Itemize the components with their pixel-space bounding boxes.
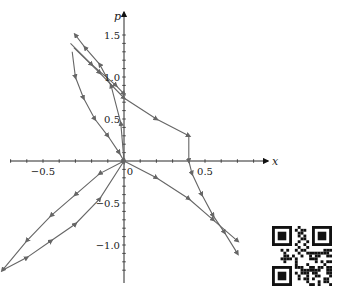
y-tick-label: 0.5 <box>104 114 120 125</box>
trajectories <box>3 35 238 270</box>
y-tick-label: 1.5 <box>104 30 120 41</box>
trajectory-line <box>74 48 189 136</box>
y-axis-title: p <box>114 10 121 23</box>
x-tick-label: −0.5 <box>31 166 55 177</box>
y-tick-label: 1.0 <box>104 72 120 83</box>
trajectory-line <box>189 136 238 254</box>
tick-labels: −0.500.51.51.00.5−0.5−1.0xp <box>31 10 279 251</box>
trajectory-line <box>75 35 124 161</box>
qr-code <box>272 226 332 286</box>
trajectory-line <box>3 161 125 270</box>
y-tick-label: −1.0 <box>96 240 120 251</box>
x-tick-label: 0.5 <box>197 166 213 177</box>
trajectory-line <box>124 161 237 241</box>
x-axis-title: x <box>272 155 279 168</box>
x-tick-label: 0 <box>127 166 133 177</box>
trajectory-line <box>3 161 125 270</box>
y-tick-label: −0.5 <box>96 198 120 209</box>
